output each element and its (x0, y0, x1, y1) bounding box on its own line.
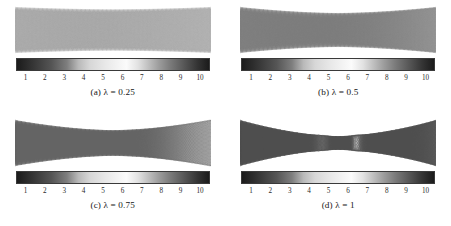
colorbar-tick-10: 10 (196, 185, 203, 197)
colorbar-tick-2: 2 (43, 72, 47, 84)
panel-caption-c: (c) λ = 0.75 (90, 200, 135, 210)
colorbar-tick-9: 9 (404, 185, 408, 197)
colorbar-tick-10: 10 (422, 72, 429, 84)
colorbar-tick-5: 5 (101, 185, 105, 197)
panel-d: 12345678910 (d) λ = 1 (226, 113, 451, 226)
colorbar-tick-2: 2 (43, 185, 47, 197)
braided-lattice-mesh-a (15, 6, 211, 54)
panel-c: 12345678910 (c) λ = 0.75 (0, 113, 226, 226)
colorbar-tick-3: 3 (62, 72, 66, 84)
panel-a: 12345678910 (a) λ = 0.25 (0, 0, 226, 113)
colorbar-gradient (17, 172, 209, 183)
colorbar-tick-8: 8 (385, 185, 389, 197)
colorbar-tick-9: 9 (179, 185, 183, 197)
figure-grid: 12345678910 (a) λ = 0.25 12345678910 (b)… (0, 0, 451, 225)
colorbar-tick-1: 1 (249, 72, 253, 84)
colorbar-tick-6: 6 (346, 72, 350, 84)
braided-lattice-mesh-d (240, 119, 436, 167)
colorbar-ticks-a: 12345678910 (16, 72, 210, 84)
colorbar-tick-1: 1 (24, 185, 28, 197)
colorbar-ticks-b: 12345678910 (241, 72, 435, 84)
colorbar-tick-5: 5 (327, 185, 331, 197)
colorbar-tick-4: 4 (307, 185, 311, 197)
colorbar-tick-3: 3 (288, 185, 292, 197)
colorbar-ticks-c: 12345678910 (16, 185, 210, 197)
colorbar-tick-7: 7 (140, 185, 144, 197)
colorbar-gradient (17, 59, 209, 70)
colorbar-tick-4: 4 (82, 72, 86, 84)
panel-b: 12345678910 (b) λ = 0.5 (226, 0, 451, 113)
colorbar-tick-1: 1 (249, 185, 253, 197)
colorbar-tick-5: 5 (101, 72, 105, 84)
colorbar-tick-8: 8 (385, 72, 389, 84)
panel-caption-d: (d) λ = 1 (322, 200, 355, 210)
colorbar-tick-2: 2 (269, 72, 273, 84)
colorbar-gradient (242, 172, 434, 183)
colorbar-tick-7: 7 (366, 185, 370, 197)
colorbar-tick-8: 8 (159, 72, 163, 84)
mesh-plot-b (240, 6, 436, 54)
colorbar-a (16, 58, 210, 71)
colorbar-tick-3: 3 (62, 185, 66, 197)
mesh-plot-d (240, 119, 436, 167)
colorbar-tick-8: 8 (159, 185, 163, 197)
colorbar-tick-2: 2 (269, 185, 273, 197)
mesh-plot-c (15, 119, 211, 167)
braided-lattice-mesh-c (15, 119, 211, 167)
colorbar-tick-1: 1 (24, 72, 28, 84)
colorbar-b (241, 58, 435, 71)
colorbar-tick-10: 10 (422, 185, 429, 197)
colorbar-tick-6: 6 (121, 185, 125, 197)
colorbar-gradient (242, 59, 434, 70)
mesh-plot-a (15, 6, 211, 54)
colorbar-tick-3: 3 (288, 72, 292, 84)
colorbar-tick-7: 7 (366, 72, 370, 84)
colorbar-block-c: 12345678910 (15, 171, 211, 197)
colorbar-block-a: 12345678910 (15, 58, 211, 84)
colorbar-tick-6: 6 (121, 72, 125, 84)
colorbar-block-b: 12345678910 (240, 58, 436, 84)
panel-caption-a: (a) λ = 0.25 (90, 87, 135, 97)
colorbar-block-d: 12345678910 (240, 171, 436, 197)
colorbar-tick-9: 9 (404, 72, 408, 84)
colorbar-tick-5: 5 (327, 72, 331, 84)
colorbar-ticks-d: 12345678910 (241, 185, 435, 197)
colorbar-c (16, 171, 210, 184)
panel-caption-b: (b) λ = 0.5 (318, 87, 358, 97)
braided-lattice-mesh-b (240, 6, 436, 54)
colorbar-tick-9: 9 (179, 72, 183, 84)
colorbar-tick-4: 4 (82, 185, 86, 197)
colorbar-tick-10: 10 (196, 72, 203, 84)
colorbar-tick-4: 4 (307, 72, 311, 84)
colorbar-tick-6: 6 (346, 185, 350, 197)
colorbar-tick-7: 7 (140, 72, 144, 84)
colorbar-d (241, 171, 435, 184)
